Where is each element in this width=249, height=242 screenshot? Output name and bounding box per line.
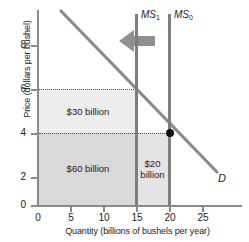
y-tick-label-0: 0 — [4, 199, 26, 210]
price-6-guide-line — [39, 89, 138, 90]
revenue-20-line1: $20 — [145, 158, 161, 169]
y-axis-label: Price (dollars per bushel) — [22, 0, 32, 144]
y-tick-label-2: 2 — [4, 171, 26, 182]
x-tick-label-25: 25 — [190, 212, 216, 223]
price-4-guide-line — [39, 133, 171, 134]
x-axis-line — [37, 205, 242, 207]
revenue-area-30-billion-label: $30 billion — [48, 106, 128, 117]
x-tick-label-5: 5 — [58, 212, 84, 223]
supply-curve-ms1-label: MS1 — [141, 9, 160, 20]
x-axis-label: Quantity (billions of bushels per year) — [30, 226, 245, 236]
supply-curve-ms0-label: MS0 — [174, 9, 193, 20]
y-tick-4 — [31, 133, 38, 135]
revenue-area-60-billion-label: $60 billion — [48, 163, 128, 174]
y-tick-8 — [31, 45, 38, 47]
revenue-20-line2: billion — [140, 169, 164, 180]
x-tick-label-0: 0 — [25, 212, 51, 223]
y-tick-0 — [31, 205, 38, 207]
ms0-label-subscript: 0 — [189, 14, 193, 21]
x-tick-label-10: 10 — [91, 212, 117, 223]
equilibrium-point-marker — [166, 129, 174, 137]
x-tick-label-15: 15 — [124, 212, 150, 223]
y-tick-6 — [31, 89, 38, 91]
ms1-label-subscript: 1 — [156, 14, 160, 21]
supply-demand-chart: 0 2 4 6 8 0 5 10 15 20 25 MS1 MS0 $30 bi… — [0, 0, 249, 242]
ms0-label-text: MS — [174, 9, 189, 20]
ms1-label-text: MS — [141, 9, 156, 20]
demand-curve-label: D — [218, 172, 226, 184]
revenue-area-20-billion-label: $20 billion — [136, 158, 169, 180]
y-tick-2 — [31, 177, 38, 179]
x-tick-label-20: 20 — [157, 212, 183, 223]
